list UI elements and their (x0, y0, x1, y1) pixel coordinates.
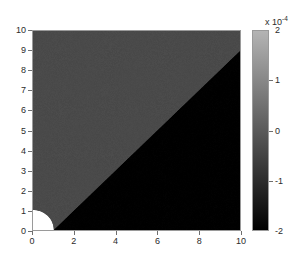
colorbar-tick-label: 1 (275, 75, 280, 85)
y-tick-mark (28, 50, 32, 51)
y-tick-label: 8 (21, 65, 26, 75)
x-tick-mark (116, 231, 117, 235)
axes-plot-box (32, 30, 241, 231)
x-tick-mark (32, 231, 33, 235)
y-tick-label: 3 (21, 166, 26, 176)
colorbar-tick-label: -1 (275, 176, 283, 186)
x-tick-label: 2 (71, 236, 76, 246)
y-tick-label: 6 (21, 105, 26, 115)
y-tick-mark (28, 191, 32, 192)
y-tick-mark (28, 30, 32, 31)
colorbar-tick-mark (269, 181, 273, 182)
x-tick-mark (157, 231, 158, 235)
y-tick-label: 0 (21, 226, 26, 236)
colorbar-tick-label: 0 (275, 126, 280, 136)
colorbar: x 10-4 210-1-2 (252, 30, 269, 231)
y-tick-mark (28, 90, 32, 91)
y-tick-mark (28, 131, 32, 132)
colorbar-tick-mark (269, 131, 273, 132)
x-tick-label: 8 (197, 236, 202, 246)
y-tick-mark (28, 110, 32, 111)
y-tick-label: 2 (21, 186, 26, 196)
x-tick-label: 0 (29, 236, 34, 246)
colorbar-tick-label: -2 (275, 226, 283, 236)
y-tick-label: 7 (21, 85, 26, 95)
x-tick-mark (199, 231, 200, 235)
main-axes: 012345678910 0246810 (32, 30, 241, 231)
colorbar-exponent-power: -4 (282, 15, 288, 22)
x-tick-label: 6 (155, 236, 160, 246)
y-tick-label: 5 (21, 126, 26, 136)
x-tick-mark (241, 231, 242, 235)
y-tick-mark (28, 171, 32, 172)
x-tick-label: 10 (236, 236, 246, 246)
pseudocolor-image (33, 31, 240, 230)
x-tick-label: 4 (113, 236, 118, 246)
y-tick-mark (28, 211, 32, 212)
figure-canvas: 012345678910 0246810 x 10-4 210-1-2 (0, 0, 302, 265)
y-tick-label: 9 (21, 45, 26, 55)
y-tick-mark (28, 70, 32, 71)
y-tick-label: 10 (16, 25, 26, 35)
colorbar-gradient (252, 30, 269, 231)
y-tick-label: 4 (21, 146, 26, 156)
y-tick-label: 1 (21, 206, 26, 216)
y-tick-mark (28, 151, 32, 152)
colorbar-tick-mark (269, 80, 273, 81)
colorbar-tick-label: 2 (275, 25, 280, 35)
x-tick-mark (74, 231, 75, 235)
